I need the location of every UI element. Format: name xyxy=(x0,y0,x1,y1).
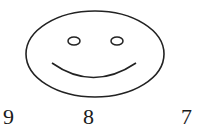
label-eight: 8 xyxy=(83,106,94,128)
left-eye xyxy=(68,37,80,45)
smile-mouth xyxy=(52,63,136,78)
face-outline xyxy=(26,11,164,97)
right-eye xyxy=(111,37,123,45)
label-nine: 9 xyxy=(3,106,14,128)
label-seven: 7 xyxy=(181,106,192,128)
smiley-face-drawing xyxy=(0,0,211,137)
